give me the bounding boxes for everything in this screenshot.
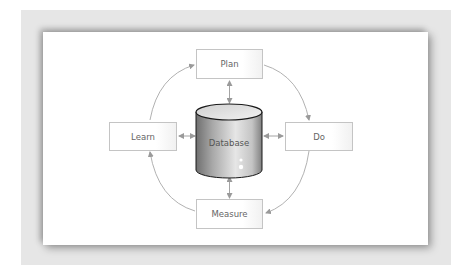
arrow-do-to-measure — [266, 151, 309, 213]
arrow-learn-to-plan — [150, 65, 194, 120]
node-measure: Measure — [196, 199, 263, 229]
node-do-label: Do — [313, 132, 325, 142]
node-plan-label: Plan — [220, 59, 238, 69]
node-do: Do — [285, 122, 353, 151]
database-label: Database — [196, 138, 262, 148]
node-plan: Plan — [196, 49, 263, 79]
node-learn-label: Learn — [131, 132, 155, 142]
arrow-plan-to-do — [264, 65, 309, 120]
arrow-measure-to-learn — [150, 152, 195, 211]
node-measure-label: Measure — [211, 209, 247, 219]
node-learn: Learn — [109, 122, 177, 151]
